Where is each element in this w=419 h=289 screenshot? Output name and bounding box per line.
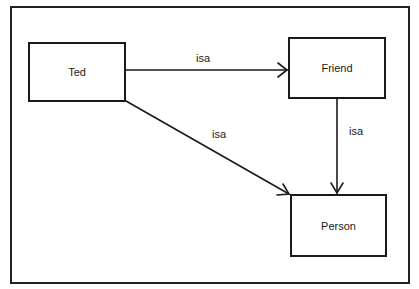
node-friend: Friend bbox=[288, 37, 386, 99]
node-label: Friend bbox=[321, 62, 352, 74]
node-ted: Ted bbox=[28, 42, 126, 102]
edge-label-ted-friend: isa bbox=[196, 52, 210, 64]
node-label: Ted bbox=[68, 66, 86, 78]
node-person: Person bbox=[290, 194, 387, 257]
edge-ted-person bbox=[126, 101, 289, 194]
arrowhead-icon bbox=[277, 184, 289, 195]
edge-label-ted-person: isa bbox=[212, 128, 226, 140]
node-label: Person bbox=[321, 220, 356, 232]
edge-label-friend-person: isa bbox=[349, 125, 363, 137]
